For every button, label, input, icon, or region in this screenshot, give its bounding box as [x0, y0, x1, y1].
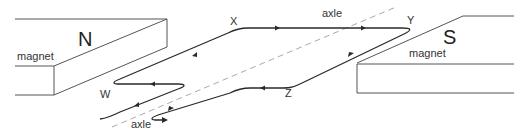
- corner-w-label: W: [100, 88, 111, 100]
- north-pole-label: N: [78, 28, 92, 50]
- arrow-icon: [162, 117, 168, 123]
- motor-coil-diagram: N magnet S magnet axle axle W X Y Z: [0, 0, 514, 132]
- corner-y-label: Y: [407, 14, 415, 26]
- coil: [100, 26, 410, 124]
- corner-x-label: X: [230, 15, 238, 27]
- arrow-icon: [260, 86, 265, 91]
- corner-z-label: Z: [285, 87, 292, 99]
- south-pole-label: S: [443, 26, 456, 48]
- arrow-icon: [192, 52, 197, 57]
- arrow-icon: [361, 26, 366, 31]
- arrow-icon: [150, 82, 155, 87]
- arrow-icon: [275, 26, 280, 31]
- axle-label-top: axle: [322, 7, 342, 19]
- magnet-label-left: magnet: [17, 50, 54, 62]
- axle-line: [112, 7, 396, 127]
- magnet-label-right: magnet: [409, 47, 446, 59]
- arrow-icon: [348, 52, 354, 57]
- axle-label-bottom: axle: [131, 118, 151, 130]
